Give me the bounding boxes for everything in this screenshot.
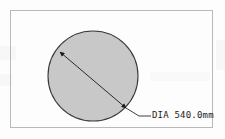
diameter-dimension-label: DIA 540.0mm (152, 110, 214, 121)
technical-drawing-canvas: DIA 540.0mm (0, 0, 225, 139)
dimension-leader-line (126, 108, 151, 116)
circle-part-outline (48, 31, 138, 121)
